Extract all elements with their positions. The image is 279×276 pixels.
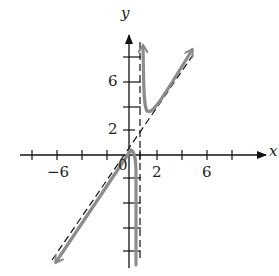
- plot-area: [0, 0, 279, 276]
- x-axis-label: x: [269, 144, 277, 159]
- y-tick-label-6: 6: [108, 74, 118, 89]
- curve-right-branch: [143, 48, 192, 112]
- origin-label: 0: [118, 158, 128, 173]
- y-tick-label-2: 2: [108, 122, 118, 137]
- x-tick-label-neg6: −6: [47, 165, 69, 180]
- x-tick-label-2: 2: [152, 165, 162, 180]
- graph: y x −6 2 6 6 2 0: [0, 0, 279, 276]
- x-tick-label-6: 6: [202, 165, 212, 180]
- y-axis-label: y: [121, 6, 129, 21]
- y-ticks: [123, 57, 141, 251]
